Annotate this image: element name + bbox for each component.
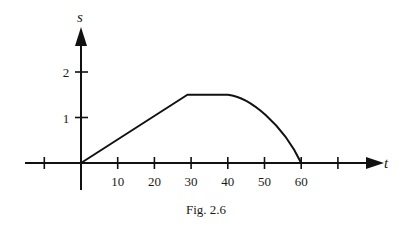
y-tick-label: 2 bbox=[63, 65, 70, 80]
x-tick-label: 10 bbox=[111, 174, 124, 189]
x-axis-arrow-icon bbox=[366, 157, 384, 169]
y-axis-label: s bbox=[77, 9, 83, 25]
x-axis-label: t bbox=[384, 155, 389, 171]
x-tick-label: 30 bbox=[185, 174, 198, 189]
x-tick-label: 50 bbox=[258, 174, 271, 189]
chart: 102030405060 t 12 s Fig. 2.6 bbox=[0, 0, 404, 231]
series-line bbox=[81, 95, 301, 163]
figure-caption: Fig. 2.6 bbox=[186, 202, 227, 217]
x-tick-label: 40 bbox=[221, 174, 234, 189]
y-axis-arrow-icon bbox=[75, 27, 87, 46]
x-axis: 102030405060 t bbox=[25, 155, 389, 189]
y-tick-label: 1 bbox=[63, 111, 70, 126]
x-tick-label: 20 bbox=[148, 174, 161, 189]
x-tick-label: 60 bbox=[295, 174, 308, 189]
